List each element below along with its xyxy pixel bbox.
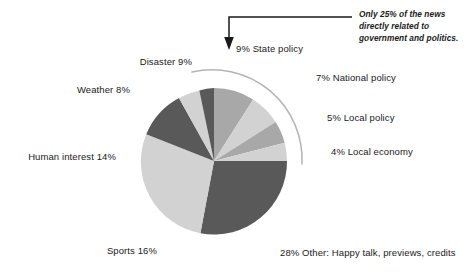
callout-line-3: government and politics. bbox=[359, 33, 458, 45]
slice-label-disaster: Disaster 9% bbox=[0, 57, 192, 68]
callout-line-2: directly related to bbox=[359, 21, 458, 33]
slice-label-weather: Weather 8% bbox=[0, 85, 130, 96]
pie-slice-other[interactable] bbox=[200, 161, 287, 235]
pie-slices bbox=[141, 88, 287, 235]
slice-label-state-policy: 9% State policy bbox=[236, 44, 303, 55]
callout-line-1: Only 25% of the news bbox=[359, 9, 458, 21]
slice-label-local-policy: 5% Local policy bbox=[327, 113, 395, 124]
pie-chart-figure: 9% State policy 7% National policy 5% Lo… bbox=[0, 0, 471, 272]
slice-label-sports: Sports 16% bbox=[0, 246, 157, 257]
callout-arrow-line bbox=[229, 17, 352, 39]
slice-label-human-interest: Human interest 14% bbox=[0, 152, 116, 163]
callout-arrow-head bbox=[224, 37, 234, 50]
slice-label-local-economy: 4% Local economy bbox=[331, 147, 413, 158]
slice-label-national-policy: 7% National policy bbox=[316, 73, 396, 84]
slice-label-other: 28% Other: Happy talk, previews, credits bbox=[280, 248, 456, 259]
callout-note: Only 25% of the news directly related to… bbox=[359, 9, 458, 44]
